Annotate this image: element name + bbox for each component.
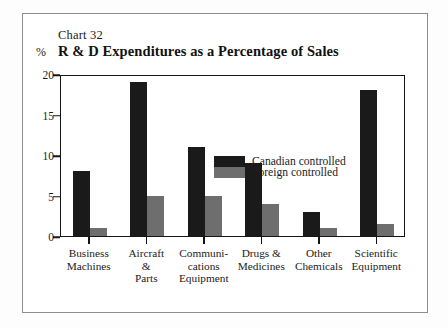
bar — [205, 196, 222, 237]
x-axis-category-label: ScientificEquipment — [341, 247, 413, 272]
y-axis-tick-mark — [53, 196, 60, 198]
chart-number-label: Chart 32 — [58, 28, 103, 43]
bar — [360, 90, 377, 236]
bar — [303, 212, 320, 236]
y-axis-ticks — [52, 75, 60, 237]
bar — [147, 196, 164, 237]
legend-labels: Canadian controlledForeign controlled — [252, 156, 346, 178]
x-axis-tick-mark — [318, 237, 320, 244]
x-axis-ticks — [60, 237, 405, 245]
x-axis-tick-mark — [203, 237, 205, 244]
x-axis-category-label-line: Equipment — [168, 272, 240, 285]
y-axis-tick-mark — [53, 115, 60, 117]
y-axis-unit-label: % — [36, 45, 46, 60]
x-axis-tick-mark — [261, 237, 263, 244]
plot-area: Canadian controlledForeign controlled — [60, 75, 405, 237]
bar-group — [130, 76, 164, 236]
x-axis-category-label-line: Scientific — [341, 247, 413, 260]
chart-screenshot: Chart 32 % R & D Expenditures as a Perce… — [0, 0, 448, 328]
legend-label-foreign: Foreign controlled — [252, 167, 346, 178]
x-axis-labels: BusinessMachinesAircraft&PartsCommuni-ca… — [60, 247, 405, 303]
bar — [130, 82, 147, 236]
x-axis-tick-mark — [146, 237, 148, 244]
bar — [262, 204, 279, 236]
legend-swatch-foreign — [214, 167, 245, 178]
x-axis-tick-mark — [376, 237, 378, 244]
y-axis-labels: 05101520 — [22, 75, 54, 237]
bar — [73, 171, 90, 236]
bar-group — [360, 76, 394, 236]
bar — [188, 147, 205, 236]
bar — [377, 224, 394, 236]
y-axis-tick-mark — [53, 236, 60, 238]
x-axis-category-label-line: Equipment — [341, 260, 413, 273]
x-axis-tick-mark — [88, 237, 90, 244]
y-axis-tick-mark — [53, 155, 60, 157]
bar-group — [73, 76, 107, 236]
legend: Canadian controlledForeign controlled — [214, 156, 346, 178]
bar — [90, 228, 107, 236]
page-title: R & D Expenditures as a Percentage of Sa… — [58, 43, 339, 60]
legend-swatch-canadian — [214, 156, 245, 167]
bar — [320, 228, 337, 236]
y-axis-tick-mark — [53, 74, 60, 76]
legend-swatches — [214, 156, 245, 178]
